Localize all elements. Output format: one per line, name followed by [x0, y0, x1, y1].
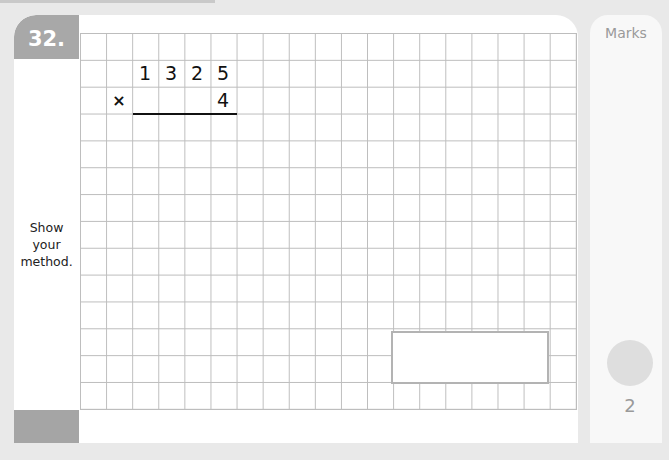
- marks-circle: [607, 340, 653, 386]
- question-number: 32.: [14, 15, 79, 59]
- digit-bottom-1: [132, 87, 158, 114]
- digit-top-4: 5: [210, 60, 236, 87]
- left-footer-block: [14, 410, 79, 443]
- marks-panel: Marks 2: [590, 15, 662, 443]
- marks-label: Marks: [590, 25, 662, 41]
- marks-value: 2: [590, 395, 669, 416]
- prompt-line: Show: [14, 219, 79, 236]
- digit-bottom-3: [184, 87, 210, 114]
- digit-bottom-4: 4: [210, 87, 236, 114]
- sum-underline: [133, 113, 237, 115]
- digit-bottom-2: [158, 87, 184, 114]
- answer-box[interactable]: [391, 331, 549, 384]
- multiply-sign: ×: [106, 87, 132, 114]
- top-strip: [0, 0, 215, 3]
- digit-top-2: 3: [158, 60, 184, 87]
- digit-top-1: 1: [132, 60, 158, 87]
- question-card: 32. Show your method. 1 3 2 5 × 4: [14, 15, 578, 443]
- prompt-line: method.: [14, 253, 79, 270]
- digit-top-3: 2: [184, 60, 210, 87]
- method-prompt: Show your method.: [14, 219, 79, 270]
- prompt-line: your: [14, 236, 79, 253]
